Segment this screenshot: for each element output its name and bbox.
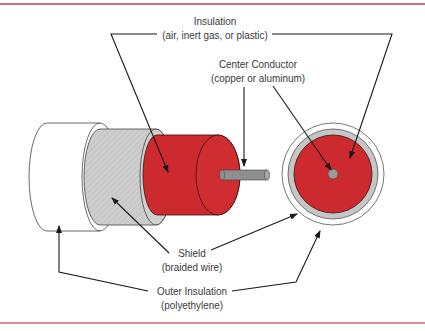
outer-leader-left — [59, 226, 148, 291]
outer-insulation-label: Outer Insulation (polyethylene) — [153, 284, 230, 312]
insulation-label: Insulation (air, inert gas, or plastic) — [159, 14, 271, 42]
shield-subtitle: (braided wire) — [158, 260, 227, 274]
shield-leader-right — [211, 214, 297, 250]
outer-insulation-subtitle: (polyethylene) — [153, 298, 230, 312]
insulation-subtitle: (air, inert gas, or plastic) — [159, 28, 271, 42]
center-conductor-subtitle: (copper or aluminum) — [211, 71, 306, 85]
outer-leader-right — [232, 231, 320, 291]
outer-insulation-title: Outer Insulation — [153, 284, 230, 298]
center-conductor-rod — [220, 170, 270, 180]
insulation-title: Insulation — [159, 14, 271, 28]
center-conductor-title: Center Conductor — [211, 57, 306, 71]
cross-section-view — [282, 123, 384, 225]
coax-diagram — [0, 0, 425, 331]
shield-title: Shield — [158, 246, 227, 260]
center-conductor-label: Center Conductor (copper or aluminum) — [211, 57, 306, 85]
shield-label: Shield (braided wire) — [158, 246, 227, 274]
